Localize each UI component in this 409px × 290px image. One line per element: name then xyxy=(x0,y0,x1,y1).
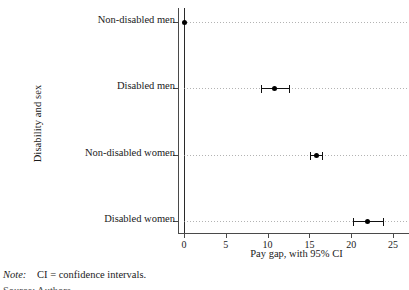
ci-cap-high-disabled-women xyxy=(383,218,384,226)
x-tick-25 xyxy=(393,233,394,238)
ci-cap-high-disabled-men xyxy=(289,85,290,93)
category-row-non-disabled-men: Non-disabled men xyxy=(184,22,409,23)
category-label-disabled-men: Disabled men xyxy=(117,80,175,91)
estimate-point-disabled-women[interactable] xyxy=(365,219,370,224)
forest-plot-figure: Disability and sex Non-disabled men Disa… xyxy=(0,0,409,290)
category-label-disabled-women: Disabled women xyxy=(104,213,175,224)
ci-cap-low-disabled-men xyxy=(261,85,262,93)
x-tick-5 xyxy=(226,233,227,238)
note-text: CI = confidence intervals. xyxy=(37,269,146,280)
note-label: Note: xyxy=(3,268,37,281)
x-tick-15 xyxy=(309,233,310,238)
category-label-non-disabled-men: Non-disabled men xyxy=(98,14,175,25)
x-axis-line xyxy=(178,233,409,234)
note-line: Note:CI = confidence intervals. xyxy=(3,268,409,281)
y-axis-title: Disability and sex xyxy=(32,39,43,209)
x-tick-10 xyxy=(268,233,269,238)
x-tick-20 xyxy=(351,233,352,238)
gridline xyxy=(184,155,409,156)
y-axis-line xyxy=(178,8,179,233)
x-tick-0 xyxy=(184,233,185,238)
estimate-point-non-disabled-men[interactable] xyxy=(182,20,187,25)
plot-area: Non-disabled men Disabled men Non-disabl… xyxy=(184,8,409,233)
source-line-clipped: Source: Authors. xyxy=(3,284,409,290)
zero-reference-line xyxy=(184,8,185,233)
category-row-disabled-men: Disabled men xyxy=(184,88,409,89)
estimate-point-disabled-men[interactable] xyxy=(272,86,277,91)
gridline xyxy=(184,22,409,23)
ci-cap-low-non-disabled-women xyxy=(310,152,311,160)
category-row-disabled-women: Disabled women xyxy=(184,221,409,222)
estimate-point-non-disabled-women[interactable] xyxy=(314,153,319,158)
ci-cap-high-non-disabled-women xyxy=(322,152,323,160)
note-block: Note:CI = confidence intervals. xyxy=(3,268,409,281)
ci-cap-low-disabled-women xyxy=(353,218,354,226)
category-row-non-disabled-women: Non-disabled women xyxy=(184,155,409,156)
x-axis-title: Pay gap, with 95% CI xyxy=(184,248,409,259)
gridline xyxy=(184,88,409,89)
category-label-non-disabled-women: Non-disabled women xyxy=(85,147,175,158)
